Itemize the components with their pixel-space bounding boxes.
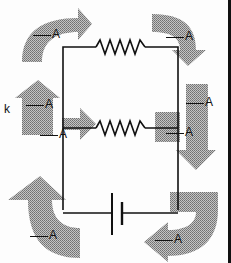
answer-blank[interactable] <box>155 240 173 241</box>
current-arrow-bottom-right <box>144 192 218 262</box>
ammeter-label-mid-left-lower: A <box>40 128 67 140</box>
circuit-diagram: A A k A A A A A A <box>0 0 231 263</box>
answer-blank[interactable] <box>30 236 48 237</box>
answer-blank[interactable] <box>186 103 204 104</box>
side-text: k <box>4 103 10 115</box>
middle-resistor <box>96 121 145 135</box>
ammeter-label-top-right: A <box>166 30 193 42</box>
ammeter-label-mid-left-upper: A <box>26 98 53 110</box>
ammeter-label-bottom-right: A <box>155 233 182 245</box>
answer-blank[interactable] <box>166 37 184 38</box>
answer-blank[interactable] <box>33 35 51 36</box>
ammeter-label-bottom-left: A <box>30 229 57 241</box>
current-arrow-bottom-left <box>8 176 80 258</box>
ammeter-label-mid-right-upper: A <box>186 96 213 108</box>
page-edge <box>228 0 231 263</box>
ammeter-label-mid-right-lower: A <box>166 126 193 138</box>
answer-blank[interactable] <box>166 133 184 134</box>
ammeter-label-top-left: A <box>33 28 60 40</box>
answer-blank[interactable] <box>26 105 44 106</box>
answer-blank[interactable] <box>40 135 58 136</box>
current-arrow-mid-branch <box>62 108 96 140</box>
top-resistor <box>96 40 145 54</box>
